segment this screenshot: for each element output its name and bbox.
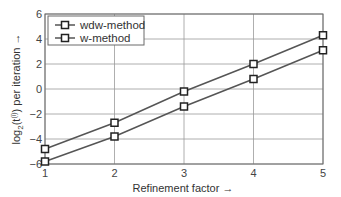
- y-tick-label: 2: [36, 58, 42, 70]
- x-tick-label: 2: [111, 167, 117, 179]
- square-marker-icon: [111, 119, 118, 126]
- y-tick-label: −6: [29, 158, 42, 170]
- line-chart: −6−4−20246 12345 wdw-method w-method Ref…: [0, 0, 341, 197]
- square-marker-icon: [181, 103, 188, 110]
- legend-label-w: w-method: [79, 32, 131, 44]
- y-tick-label: 0: [36, 83, 42, 95]
- x-axis-label: Refinement factor →: [133, 182, 234, 194]
- y-axis-label: log2(t(i)) per iteration →: [10, 34, 25, 145]
- x-tick-label: 3: [181, 167, 187, 179]
- square-marker-icon: [42, 158, 49, 165]
- legend: wdw-method w-method: [48, 16, 145, 45]
- square-marker-icon: [181, 88, 188, 95]
- y-tick-label: −2: [29, 108, 42, 120]
- legend-label-wdw: wdw-method: [79, 19, 145, 31]
- square-marker-icon: [250, 61, 257, 68]
- square-marker-icon: [42, 146, 49, 153]
- y-tick-label: 4: [36, 33, 42, 45]
- y-tick-label: −4: [29, 133, 42, 145]
- square-marker-icon: [320, 32, 327, 39]
- square-marker-icon: [62, 22, 69, 29]
- x-tick-label: 4: [250, 167, 256, 179]
- square-marker-icon: [250, 76, 257, 83]
- y-axis-ticks: −6−4−20246: [29, 8, 42, 170]
- square-marker-icon: [62, 35, 69, 42]
- x-tick-label: 5: [320, 167, 326, 179]
- x-tick-label: 1: [42, 167, 48, 179]
- square-marker-icon: [111, 133, 118, 140]
- x-axis-ticks: 12345: [42, 167, 326, 179]
- legend-entry-w: w-method: [55, 32, 131, 44]
- legend-entry-wdw: wdw-method: [55, 19, 145, 31]
- square-marker-icon: [320, 47, 327, 54]
- y-tick-label: 6: [36, 8, 42, 20]
